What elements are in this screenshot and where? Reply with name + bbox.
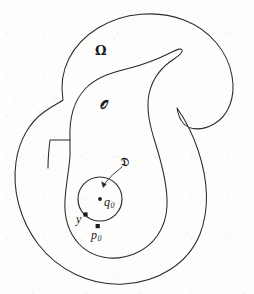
label-script-o: 𝒪	[100, 99, 108, 111]
open-set-cusp-notch	[48, 140, 70, 168]
label-y: y	[76, 213, 81, 225]
omega-boundary-path	[15, 14, 233, 284]
point-y-dot	[83, 212, 87, 216]
figure-canvas: Ω 𝒪 𝔇 q0 y p0	[0, 0, 254, 294]
diagram-svg	[0, 0, 254, 294]
disc-callout-arrow	[104, 167, 122, 185]
label-q0-subscript: 0	[110, 201, 114, 210]
label-omega: Ω	[95, 44, 107, 57]
label-q0: q0	[104, 196, 114, 210]
label-disc-d: 𝔇	[121, 157, 129, 168]
label-p0-subscript: 0	[97, 234, 101, 243]
label-p0: p0	[91, 229, 101, 243]
point-q0-dot	[98, 197, 102, 201]
open-set-boundary-path	[65, 49, 182, 258]
